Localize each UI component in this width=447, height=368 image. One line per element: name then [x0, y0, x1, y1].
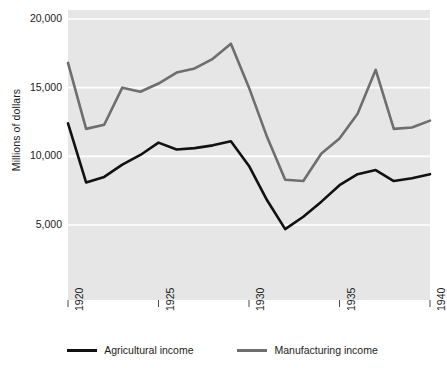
x-axis-tick-label: 1935: [345, 288, 357, 311]
legend-label: Agricultural income: [104, 344, 193, 356]
y-axis-tick-label: 15,000: [16, 81, 62, 93]
y-axis-tick-label: 10,000: [16, 149, 62, 161]
x-axis-tick-label: 1930: [254, 288, 266, 311]
x-axis-tick-label: 1920: [73, 288, 85, 311]
y-axis-tick-labels: 5,00010,00015,00020,000: [14, 0, 62, 300]
x-axis-tick-marks: [68, 300, 430, 307]
legend-label: Manufacturing income: [274, 344, 377, 356]
legend-swatch: [237, 349, 267, 352]
plot-background: [68, 10, 430, 300]
y-axis-tick-label: 5,000: [16, 218, 62, 230]
legend-item[interactable]: Agricultural income: [67, 344, 193, 356]
chart-legend: Agricultural incomeManufacturing income: [0, 344, 445, 356]
x-axis-tick-label: 1925: [164, 288, 176, 311]
legend-item[interactable]: Manufacturing income: [237, 344, 377, 356]
y-axis-tick-label: 20,000: [16, 12, 62, 24]
x-axis-tick-label: 1940: [435, 288, 447, 311]
legend-swatch: [67, 349, 97, 352]
